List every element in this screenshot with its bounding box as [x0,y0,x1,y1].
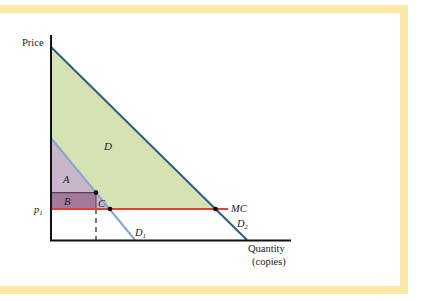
x-axis-label: Quantity [248,243,285,254]
x-axis-sublabel: (copies) [252,256,286,268]
region-b-label: B [64,196,71,207]
point-d1-mc [108,207,113,212]
price-p1-label: p1 [33,204,43,217]
region-c-label: C [98,198,106,209]
region-d-label: D [103,140,112,152]
d1-label: D1 [134,227,146,240]
frame-top [0,5,408,13]
mc-label: MC [230,203,248,214]
point-d2-mc [213,207,218,212]
point-d1-b [94,190,99,195]
y-axis-label: Price [22,37,44,48]
d2-label: D2 [236,218,249,231]
frame-bottom [0,286,408,294]
region-a-label: A [62,174,70,185]
frame-right [400,5,408,293]
diagram-canvas: Price Quantity (copies) D A B C p1 MC D2… [0,0,426,301]
region-b [51,193,96,209]
